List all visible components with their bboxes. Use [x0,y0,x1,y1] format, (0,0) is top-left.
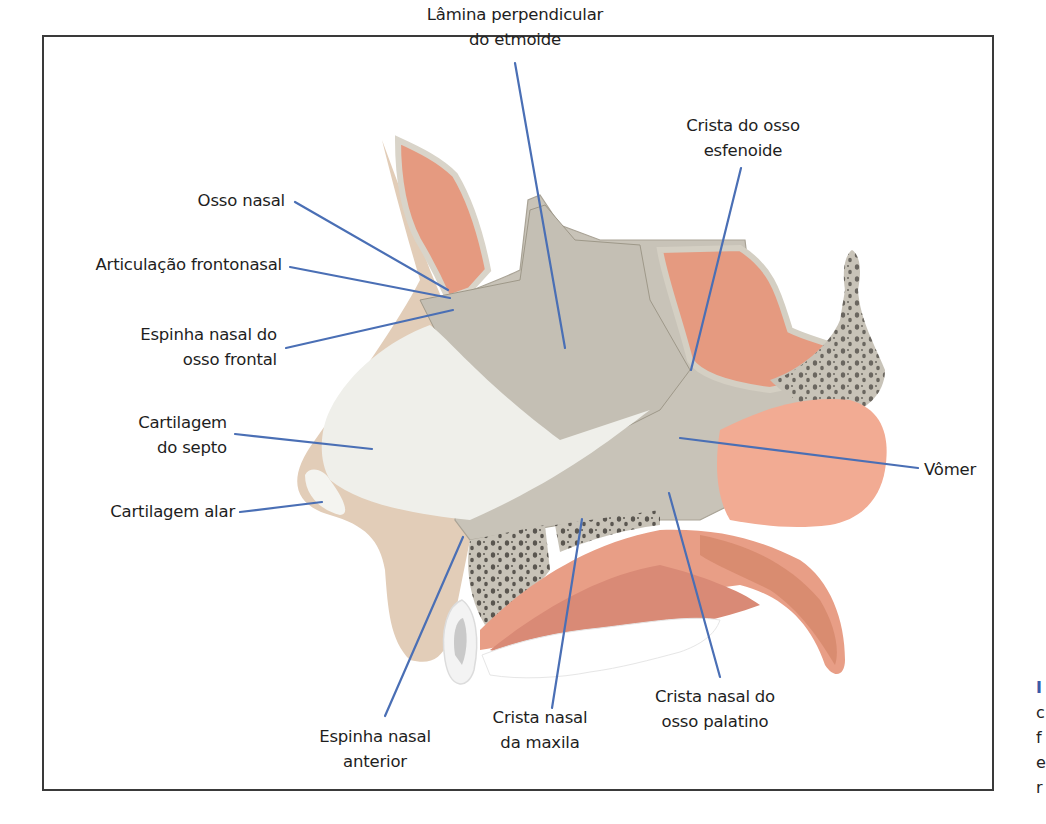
caption-fragment: f [1036,725,1046,750]
label-line: da maxila [500,733,579,752]
label-line: Crista do osso [686,116,800,135]
label-vomer: Vômer [924,457,994,482]
label-line: Crista nasal do [655,687,775,706]
caption-fragment: r [1036,775,1046,800]
label-line: Espinha nasal [319,727,431,746]
label-crista-nasal-maxila: Crista nasal da maxila [480,705,600,755]
label-line: esfenoide [704,141,783,160]
caption-fragment: e [1036,750,1046,775]
label-espinha-nasal-anterior: Espinha nasal anterior [300,724,450,774]
label-articulacao-frontonasal: Articulação frontonasal [60,252,282,277]
label-line: do etmoide [469,30,561,49]
label-line: Articulação frontonasal [96,255,282,274]
label-crista-esfenoide: Crista do osso esfenoide [668,113,818,163]
label-line: anterior [343,752,407,771]
label-cartilagem-alar: Cartilagem alar [60,499,235,524]
label-cartilagem-septo: Cartilagem do septo [110,410,227,460]
clipped-side-caption: I c f e r [1036,675,1046,800]
label-line: osso palatino [662,712,769,731]
caption-fragment: c [1036,700,1046,725]
label-lamina-perpendicular: Lâmina perpendicular do etmoide [420,2,610,52]
label-line: Espinha nasal do [140,325,277,344]
label-line: Cartilagem [138,413,227,432]
label-osso-nasal: Osso nasal [130,188,285,213]
label-line: osso frontal [183,350,277,369]
caption-fragment: I [1036,675,1046,700]
label-line: Osso nasal [198,191,285,210]
label-line: Lâmina perpendicular [427,5,603,24]
label-crista-nasal-palatino: Crista nasal do osso palatino [640,684,790,734]
frontal-sinus [398,140,488,298]
label-line: Crista nasal [493,708,588,727]
label-line: Vômer [924,460,976,479]
label-espinha-nasal-frontal: Espinha nasal do osso frontal [110,322,277,372]
label-line: do septo [157,438,227,457]
label-line: Cartilagem alar [110,502,235,521]
